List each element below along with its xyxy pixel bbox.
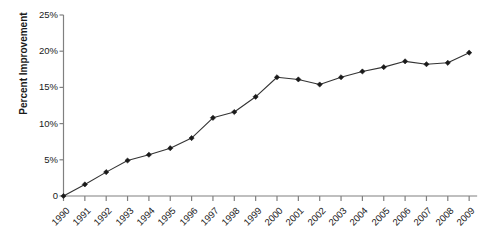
data-point-marker bbox=[338, 75, 343, 80]
data-point-marker bbox=[360, 69, 365, 74]
data-point-marker bbox=[403, 59, 408, 64]
data-point-marker bbox=[317, 82, 322, 87]
data-point-marker bbox=[381, 65, 386, 70]
data-series-line bbox=[64, 53, 470, 196]
data-point-marker bbox=[168, 146, 173, 151]
data-point-marker bbox=[125, 158, 130, 163]
data-point-marker bbox=[61, 193, 66, 198]
data-point-marker bbox=[104, 170, 109, 175]
plot-area bbox=[0, 0, 487, 236]
data-point-marker bbox=[467, 50, 472, 55]
chart-container: Percent Improvement 05%10%15%20%25% 1990… bbox=[0, 0, 487, 236]
data-point-marker bbox=[82, 182, 87, 187]
data-point-marker bbox=[146, 152, 151, 157]
data-point-marker bbox=[296, 77, 301, 82]
data-point-marker bbox=[424, 62, 429, 67]
data-point-marker bbox=[445, 60, 450, 65]
